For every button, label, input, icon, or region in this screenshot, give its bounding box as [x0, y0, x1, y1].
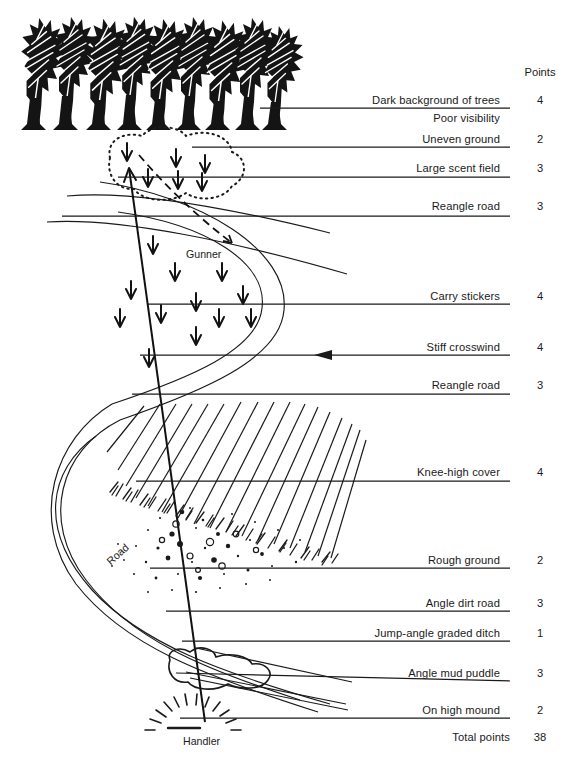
total-points-label: Total points [415, 731, 510, 743]
legend-points-value: 3 [525, 597, 555, 609]
legend-label: On high mound [250, 704, 500, 716]
diagram-label-handler: Handler [183, 735, 220, 747]
legend-points-value: 4 [525, 341, 555, 353]
legend-label: Knee-high cover [250, 466, 500, 478]
legend-points-value: 4 [525, 466, 555, 478]
legend-label: Stiff crosswind [250, 341, 500, 353]
cover-stubble-edge [110, 482, 338, 565]
legend-points-value: 3 [525, 200, 555, 212]
rough-ground-stipple [111, 507, 301, 593]
legend-label: Angle dirt road [250, 597, 500, 609]
legend-label: Carry stickers [250, 290, 500, 302]
legend-points-value: 2 [525, 133, 555, 145]
legend-label: Rough ground [250, 554, 500, 566]
legend-points-value: 2 [525, 704, 555, 716]
legend-label: Uneven ground [250, 133, 500, 145]
high-mound-rays [145, 694, 241, 730]
rough-ground-rings [159, 521, 258, 573]
legend-points-value: 1 [525, 627, 555, 639]
legend-label: Angle mud puddle [250, 667, 500, 679]
legend-label: Jump-angle graded ditch [250, 627, 500, 639]
legend-label: Dark background of trees [250, 94, 500, 106]
legend-label: Reangle road [250, 379, 500, 391]
points-column-header: Points [510, 66, 570, 78]
legend-points-value: 3 [525, 379, 555, 391]
legend-points-value: 3 [525, 162, 555, 174]
legend-label: Large scent field [250, 162, 500, 174]
legend-points-value: 3 [525, 667, 555, 679]
legend-points-value: 4 [525, 94, 555, 106]
legend-label: Reangle road [250, 200, 500, 212]
legend-points-value: 2 [525, 554, 555, 566]
diagram-label-gunner: Gunner [186, 248, 221, 260]
legend-points-value: 4 [525, 290, 555, 302]
legend-label: Poor visibility [250, 112, 500, 124]
figure-canvas: Points Dark background of trees4Poor vis… [0, 0, 573, 780]
total-points-value: 38 [525, 731, 555, 743]
